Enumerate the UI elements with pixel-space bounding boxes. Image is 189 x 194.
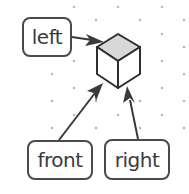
- arrow-right-head: [123, 86, 135, 103]
- label-left-text: left: [32, 25, 62, 49]
- arrow-right: [130, 100, 138, 139]
- label-left: left: [22, 17, 72, 57]
- arrow-front-head: [87, 83, 103, 101]
- label-front: front: [27, 140, 93, 180]
- label-right-text: right: [115, 148, 160, 172]
- arrow-front: [59, 93, 95, 140]
- label-right: right: [104, 139, 170, 180]
- label-front-text: front: [37, 148, 82, 172]
